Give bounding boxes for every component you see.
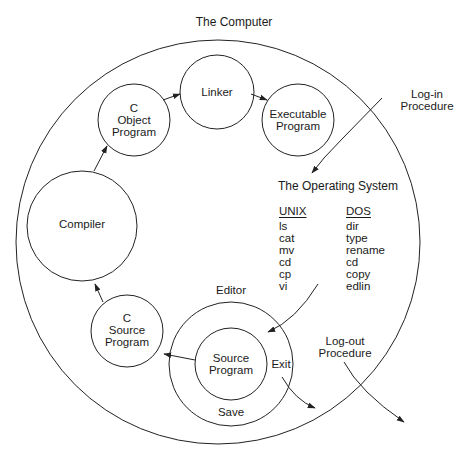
editor-source-line-2: Program — [191, 364, 271, 376]
editor-label: Editor — [201, 284, 261, 296]
unix-command: cd — [279, 256, 306, 268]
editor-source-line-1: Source — [191, 352, 271, 364]
save-text: Save — [211, 406, 251, 418]
unix-commands-column: UNIX ls cat mv cd cp vi — [279, 205, 306, 292]
dos-command: type — [346, 232, 385, 244]
dos-commands-column: DOS dir type rename cd copy edlin — [346, 205, 385, 292]
linker-label: Linker — [177, 86, 257, 98]
editor-exit-label: Exit — [266, 358, 296, 370]
dos-command: copy — [346, 268, 385, 280]
dos-command: edlin — [346, 280, 385, 292]
arrow-compiler-to-object — [94, 146, 107, 171]
title-text: The Computer — [174, 16, 294, 28]
object-line-1: C — [94, 102, 174, 114]
diagram-title: The Computer — [174, 16, 294, 28]
diagram-canvas — [0, 0, 467, 461]
editor-source-program-label: Source Program — [191, 352, 271, 376]
logout-procedure-label: Log-out Procedure — [310, 335, 380, 359]
linker-text: Linker — [177, 86, 257, 98]
csource-line-2: Source — [87, 324, 167, 336]
arrow-csource-to-compiler — [95, 284, 103, 302]
dos-command: rename — [346, 244, 385, 256]
unix-command: cat — [279, 232, 306, 244]
unix-header: UNIX — [279, 205, 306, 217]
logout-line-1: Log-out — [310, 335, 380, 347]
os-title-text: The Operating System — [268, 180, 408, 192]
exit-text: Exit — [266, 358, 296, 370]
object-program-label: C Object Program — [94, 102, 174, 138]
editor-save-label: Save — [211, 406, 251, 418]
dos-header: DOS — [346, 205, 385, 217]
unix-command: mv — [279, 244, 306, 256]
object-line-3: Program — [94, 126, 174, 138]
logout-line-2: Procedure — [310, 347, 380, 359]
executable-line-2: Program — [258, 120, 338, 132]
executable-line-1: Executable — [258, 108, 338, 120]
object-line-2: Object — [94, 114, 174, 126]
unix-command: ls — [279, 220, 306, 232]
unix-command: vi — [279, 280, 306, 292]
csource-line-3: Program — [87, 336, 167, 348]
editor-text: Editor — [201, 284, 261, 296]
csource-line-1: C — [87, 312, 167, 324]
unix-command: cp — [279, 268, 306, 280]
login-line-1: Log-in — [392, 88, 462, 100]
dos-command: dir — [346, 220, 385, 232]
compiler-text: Compiler — [42, 218, 122, 230]
arrow-exit-out — [282, 377, 315, 408]
compiler-label: Compiler — [42, 218, 122, 230]
login-line-2: Procedure — [392, 100, 462, 112]
operating-system-title: The Operating System — [268, 180, 408, 192]
login-procedure-label: Log-in Procedure — [392, 88, 462, 112]
executable-program-label: Executable Program — [258, 108, 338, 132]
c-source-program-label: C Source Program — [87, 312, 167, 348]
dos-command: cd — [346, 256, 385, 268]
